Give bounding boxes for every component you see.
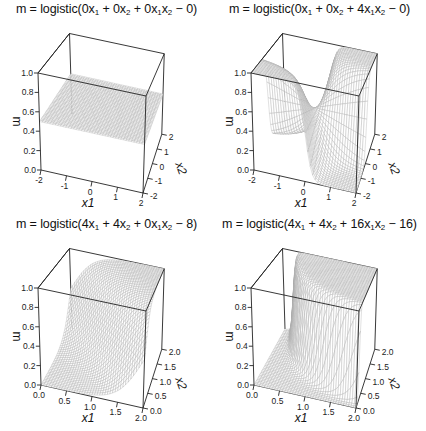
x2-tick-label: 1.5: [164, 362, 176, 372]
x2-tick-label: 0.5: [155, 391, 167, 401]
x2-tick-label: 2.0: [169, 347, 181, 357]
x2-axis-label: x2: [172, 159, 190, 177]
z-tick-label: 1.0: [21, 68, 33, 78]
x2-tick-label: 0: [372, 162, 377, 172]
x2-tick-label: 1.0: [372, 377, 384, 387]
z-tick-label: 0.0: [237, 380, 249, 390]
x2-tick-label: 0.5: [368, 391, 380, 401]
x2-axis: 0.00.51.01.52.0x2: [143, 347, 190, 416]
x2-tick-label: 0.0: [150, 406, 162, 416]
x2-tick-label: 1: [164, 147, 169, 157]
x2-tick-label: 2.0: [382, 347, 394, 357]
z-tick-label: 0.8: [235, 302, 247, 312]
x1-tick-label: -2: [248, 175, 256, 185]
x1-tick-label: 0.0: [246, 390, 258, 400]
x1-tick-label: -2: [35, 175, 43, 185]
x1-tick-label: 1.5: [110, 407, 122, 417]
x2-tick-label: -2: [363, 191, 371, 201]
z-axis-label: m: [10, 332, 24, 342]
z-tick-label: 0.2: [24, 361, 36, 371]
z-tick-label: 0.8: [22, 302, 34, 312]
z-axis: 0.00.20.40.60.81.0m: [223, 283, 254, 390]
x1-axis-label: x1: [294, 411, 308, 425]
x2-tick-label: 0: [159, 162, 164, 172]
x2-axis-label: x2: [385, 159, 403, 177]
x2-tick-label: 2: [169, 132, 174, 142]
x1-tick-label: 0.5: [59, 396, 71, 406]
x1-tick-label: 1: [113, 192, 118, 202]
x2-tick-label: -2: [150, 191, 158, 201]
z-tick-label: 1.0: [21, 283, 33, 293]
z-tick-label: 0.2: [237, 146, 249, 156]
z-tick-label: 0.6: [22, 107, 34, 117]
z-axis: 0.00.20.40.60.81.0m: [223, 68, 254, 175]
x2-tick-label: 1.5: [377, 362, 389, 372]
surface-plot-4: 0.00.20.40.60.81.0m0.00.51.01.52.0x10.00…: [213, 215, 426, 430]
plot-panel-1: m = logistic(0x1 + 0x2 + 0x1x2 − 0) 0.00…: [0, 0, 213, 215]
z-tick-label: 1.0: [234, 68, 246, 78]
x1-tick-label: 1.5: [323, 407, 335, 417]
x1-axis-label: x1: [81, 196, 95, 210]
x2-axis-label: x2: [385, 374, 403, 392]
plot-panel-3: m = logistic(4x1 + 4x2 + 0x1x2 − 8) 0.00…: [0, 215, 213, 430]
x2-tick-label: -1: [368, 176, 376, 186]
x2-tick-label: 1: [377, 147, 382, 157]
z-axis-label: m: [223, 117, 237, 127]
x1-tick-label: 1: [326, 192, 331, 202]
z-tick-label: 0.0: [237, 165, 249, 175]
surface-plot-3: 0.00.20.40.60.81.0m0.00.51.01.52.0x10.00…: [0, 215, 213, 430]
x1-tick-label: 0.5: [272, 396, 284, 406]
x2-tick-label: 2: [382, 132, 387, 142]
plot-panel-2: m = logistic(0x1 + 0x2 + 4x1x2 − 0) 0.00…: [213, 0, 426, 215]
x2-tick-label: 1.0: [159, 377, 171, 387]
x1-tick-label: -1: [274, 181, 282, 191]
x1-tick-label: 2: [139, 198, 144, 208]
plot-panel-4: m = logistic(4x1 + 4x2 + 16x1x2 − 16) 0.…: [213, 215, 426, 430]
x2-axis-label: x2: [172, 374, 190, 392]
z-axis: 0.00.20.40.60.81.0m: [10, 68, 41, 175]
z-tick-label: 1.0: [234, 283, 246, 293]
z-tick-label: 0.4: [23, 126, 35, 136]
x1-axis-label: x1: [81, 411, 95, 425]
surface-plot-2: 0.00.20.40.60.81.0m-2-1012x1-2-1012x2: [213, 0, 426, 215]
x1-tick-label: 2.0: [348, 413, 360, 423]
surface-plot-1: 0.00.20.40.60.81.0m-2-1012x1-2-1012x2: [0, 0, 213, 215]
z-tick-label: 0.4: [236, 341, 248, 351]
z-tick-label: 0.6: [235, 107, 247, 117]
x2-axis: 0.00.51.01.52.0x2: [356, 347, 403, 416]
z-tick-label: 0.8: [235, 87, 247, 97]
x2-tick-label: -1: [155, 176, 163, 186]
z-axis-label: m: [223, 332, 237, 342]
z-tick-label: 0.0: [24, 165, 36, 175]
x1-tick-label: -1: [61, 181, 69, 191]
z-tick-label: 0.6: [235, 322, 247, 332]
z-tick-label: 0.4: [23, 341, 35, 351]
x2-tick-label: 0.0: [363, 406, 375, 416]
z-tick-label: 0.2: [237, 361, 249, 371]
x1-tick-label: 0.0: [33, 390, 45, 400]
z-tick-label: 0.4: [236, 126, 248, 136]
x1-tick-label: 2: [352, 198, 357, 208]
z-tick-label: 0.2: [24, 146, 36, 156]
x1-tick-label: 2.0: [135, 413, 147, 423]
z-tick-label: 0.6: [22, 322, 34, 332]
z-tick-label: 0.8: [22, 87, 34, 97]
z-axis-label: m: [10, 117, 24, 127]
x2-axis: -2-1012x2: [143, 132, 190, 201]
z-axis: 0.00.20.40.60.81.0m: [10, 283, 41, 390]
z-tick-label: 0.0: [24, 380, 36, 390]
x1-axis-label: x1: [294, 196, 308, 210]
